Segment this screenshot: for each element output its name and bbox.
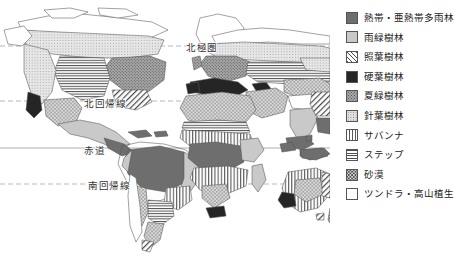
legend-label-tundra-alpine: ツンドラ・高山植生 bbox=[364, 189, 454, 199]
legend-item-tropical-rainforest: 熱帯・亜熱帯多雨林 bbox=[346, 8, 446, 28]
caribbean-islands-2 bbox=[154, 131, 168, 137]
legend-label-conifer-forest: 針葉樹林 bbox=[364, 111, 404, 121]
india-raingreen bbox=[290, 108, 318, 140]
legend-item-savanna: サバンナ bbox=[346, 126, 446, 146]
legend-swatch-tundra-alpine bbox=[346, 188, 358, 200]
cape-hardleaf bbox=[206, 206, 226, 218]
legend-swatch-hardleaf-forest bbox=[346, 71, 358, 83]
legend-item-steppe: ステップ bbox=[346, 145, 446, 165]
europe-summergreen bbox=[200, 56, 250, 82]
british-isles bbox=[192, 56, 202, 70]
landmasses bbox=[4, 8, 330, 252]
new-zealand bbox=[328, 208, 330, 226]
legend-label-summergreen-forest: 夏緑樹林 bbox=[364, 91, 404, 101]
legend-swatch-laurel-forest bbox=[346, 51, 358, 63]
kalahari-desert bbox=[202, 184, 230, 208]
legend-swatch-raingreen-forest bbox=[346, 31, 358, 43]
pampas-steppe bbox=[148, 200, 174, 226]
label-tropic-of-cancer: 北回帰線 bbox=[84, 96, 126, 110]
madagascar bbox=[252, 164, 266, 192]
legend-swatch-desert bbox=[346, 169, 358, 181]
legend-swatch-savanna bbox=[346, 129, 358, 141]
label-tropic-of-capricorn: 南回帰線 bbox=[88, 178, 130, 192]
africa bbox=[180, 92, 266, 218]
map-area: 北極圏 北回帰線 赤道 南回帰線 bbox=[0, 0, 330, 257]
sa-south-laurel bbox=[142, 240, 154, 252]
legend-item-conifer-forest: 針葉樹林 bbox=[346, 106, 446, 126]
north-america bbox=[4, 8, 168, 156]
world-map-svg bbox=[0, 0, 330, 257]
na-california-hardleaf bbox=[26, 92, 42, 118]
iberia-hardleaf bbox=[186, 82, 200, 94]
africa-east-raingreen bbox=[240, 138, 264, 162]
australia-sw-hardleaf bbox=[278, 192, 296, 208]
tasmania bbox=[316, 213, 324, 220]
legend-swatch-steppe bbox=[346, 149, 358, 161]
legend-item-desert: 砂漠 bbox=[346, 165, 446, 185]
legend-label-hardleaf-forest: 硬葉樹林 bbox=[364, 72, 404, 82]
new-guinea-tropical bbox=[300, 148, 330, 160]
legend-item-raingreen-forest: 雨緑樹林 bbox=[346, 28, 446, 48]
na-prairie-steppe bbox=[54, 56, 110, 100]
legend-item-hardleaf-forest: 硬葉樹林 bbox=[346, 67, 446, 87]
south-america bbox=[118, 142, 200, 252]
na-summergreen bbox=[106, 56, 166, 92]
sea-tropical bbox=[316, 118, 330, 134]
label-arctic-circle: 北極圏 bbox=[186, 40, 218, 54]
legend-label-raingreen-forest: 雨緑樹林 bbox=[364, 33, 404, 43]
legend-item-summergreen-forest: 夏緑樹林 bbox=[346, 86, 446, 106]
legend-label-steppe: ステップ bbox=[364, 150, 404, 160]
australia-oceania bbox=[278, 148, 330, 226]
legend: 熱帯・亜熱帯多雨林 雨緑樹林 照葉樹林 硬葉樹林 夏緑樹林 針葉樹林 サバンナ bbox=[346, 8, 446, 204]
sri-lanka bbox=[306, 135, 312, 141]
legend-swatch-summergreen-forest bbox=[346, 90, 358, 102]
caribbean-islands bbox=[128, 130, 152, 138]
legend-label-laurel-forest: 照葉樹林 bbox=[364, 52, 404, 62]
legend-label-desert: 砂漠 bbox=[364, 170, 384, 180]
australia-east-laurel bbox=[322, 172, 330, 198]
label-equator: 赤道 bbox=[84, 143, 105, 157]
legend-swatch-tropical-rainforest bbox=[346, 12, 358, 24]
legend-item-laurel-forest: 照葉樹林 bbox=[346, 47, 446, 67]
legend-label-savanna: サバンナ bbox=[364, 131, 404, 141]
legend-swatch-conifer-forest bbox=[346, 110, 358, 122]
legend-item-tundra-alpine: ツンドラ・高山植生 bbox=[346, 184, 446, 204]
legend-label-tropical-rainforest: 熱帯・亜熱帯多雨林 bbox=[364, 13, 454, 23]
